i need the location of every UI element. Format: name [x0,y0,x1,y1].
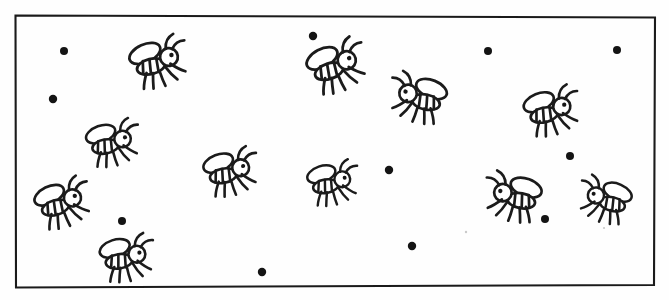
fly [388,70,451,126]
dot [49,95,57,103]
speck [465,231,467,233]
drawing-canvas [0,0,669,300]
dot [309,32,317,40]
fly [577,173,636,227]
dot [258,268,266,276]
fly-group [29,33,636,284]
fly [484,170,545,224]
fly [304,159,359,207]
fly [125,33,191,92]
fly [29,174,94,233]
speck [603,227,605,229]
speck-group [465,227,605,233]
dot [541,215,549,223]
fly [83,117,141,168]
dot [385,166,393,174]
fly [97,233,154,283]
fly [301,34,371,98]
fly [200,145,260,198]
dot [60,47,68,55]
dot [613,46,621,54]
dot [118,217,126,225]
dot [566,152,574,160]
dot [408,242,416,250]
dot [484,47,492,55]
fly [520,83,582,138]
